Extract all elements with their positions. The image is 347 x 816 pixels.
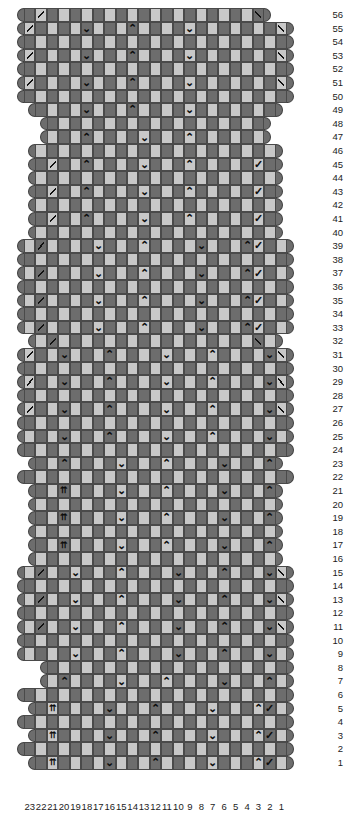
chart-cell [24,593,35,607]
chart-cell [81,484,92,498]
chart-cell [58,35,69,49]
chart-cell [241,130,252,144]
chart-cell [253,253,264,267]
chart-cell [241,375,252,389]
chart-row [24,253,287,267]
chart-cell [24,362,35,376]
chart-cell [161,321,172,335]
chart-cell [173,430,184,444]
chart-cell [35,49,46,63]
right-slant-decrease-symbol [278,568,285,578]
chart-cell [218,470,229,484]
chart-cell [47,742,58,756]
chart-cell: ⌄ [81,22,92,36]
chart-cell [276,321,287,335]
down-arrow-symbol: ⌄ [71,566,80,577]
down-arrow-symbol: ⌄ [220,512,229,523]
chart-cell [161,171,172,185]
chart-cell [104,253,115,267]
row-number-label: 32 [317,334,343,348]
chart-cell: ⌃ [127,22,138,36]
chart-cell [230,90,241,104]
chart-cell [138,674,149,688]
chart-cell [35,742,46,756]
chart-cell [81,348,92,362]
chart-cell [161,103,172,117]
chart-cell [184,511,195,525]
chart-cell [276,35,287,49]
chart-cell [184,443,195,457]
chart-cell [138,715,149,729]
chart-cell [58,226,69,240]
chart-cell [241,525,252,539]
chart-cell: ⌄ [138,158,149,172]
up-arrow-symbol: ⌃ [185,186,194,197]
chart-cell [70,239,81,253]
chart-cell: ⌄ [218,674,229,688]
chart-cell [196,457,207,471]
chart-cell [116,443,127,457]
chart-cell [116,688,127,702]
chart-cell [127,253,138,267]
chart-cell [70,538,81,552]
chart-cell [207,620,218,634]
chart-cell [207,130,218,144]
up-arrow-symbol: ⌃ [185,131,194,142]
chart-cell: ⇈ [58,484,69,498]
down-arrow-symbol: ⌄ [94,322,103,333]
chart-cell [104,117,115,131]
chart-cell [35,579,46,593]
chart-row: ⌃⌄⌃✓ [35,158,275,172]
down-arrow-symbol: ⌄ [174,566,183,577]
chart-cell [253,117,264,131]
chart-cell [173,416,184,430]
column-number-label: 16 [104,801,115,812]
chart-cell [264,280,275,294]
chart-cell [116,280,127,294]
right-slant-decrease-symbol [278,51,285,61]
chart-cell [207,566,218,580]
chart-cell [47,280,58,294]
chart-cell [58,8,69,22]
chart-cell [138,62,149,76]
chart-cell [104,661,115,675]
chart-cell [218,158,229,172]
chart-cell [150,742,161,756]
chart-cell [127,62,138,76]
double-up-arrow-symbol: ⇈ [49,703,57,712]
chart-cell [81,552,92,566]
chart-cell [161,661,172,675]
row-number-label: 46 [317,144,343,158]
chart-cell [138,280,149,294]
chart-cell [173,62,184,76]
row-number-label: 35 [317,294,343,308]
chart-cell: ⌃ [81,130,92,144]
chart-cell [241,389,252,403]
chart-cell [104,185,115,199]
chart-cell [253,280,264,294]
chart-cell [253,443,264,457]
chart-cell [70,674,81,688]
chart-cell [81,389,92,403]
chart-cell [196,212,207,226]
chart-cell [253,402,264,416]
stitch-chart: 56⌄⌃⌄5554⌄⌃⌄5352⌄⌃⌄5150⌄⌃⌄4948⌃⌄⌃4746⌃⌄⌃… [0,0,347,816]
chart-cell [207,212,218,226]
chart-cell: ⌃ [161,457,172,471]
chart-cell [218,62,229,76]
row-number-label: 50 [317,90,343,104]
right-slant-decrease-symbol [278,595,285,605]
chart-cell [104,484,115,498]
chart-cell [218,756,229,770]
chart-cell: ⌄ [207,756,218,770]
row-number-label: 39 [317,239,343,253]
chart-cell [253,35,264,49]
chart-cell [150,511,161,525]
chart-cell [81,402,92,416]
chart-cell [81,226,92,240]
chart-cell [173,538,184,552]
chart-cell [24,443,35,457]
chart-row: ⌄⌃⌄⌃✓ [24,321,287,335]
row-number-label: 20 [317,498,343,512]
chart-cell [127,634,138,648]
